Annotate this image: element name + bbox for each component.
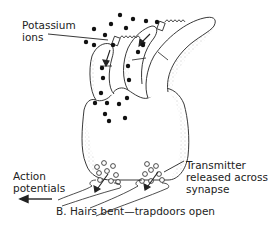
potassium-label-line1: Potassium [22,19,76,31]
action-potentials-arrow-icon [20,196,52,203]
transmitter-label-line1: Transmitter [186,159,268,171]
potassium-ions-label: Potassium ions [22,19,76,43]
action-potentials-label: Action potentials [13,170,65,194]
action-label-line2: potentials [13,182,65,194]
figure-caption: B. Hairs bent—trapdoors open [56,205,215,217]
potassium-label-line2: ions [22,31,76,43]
transmitter-label: Transmitter released across synapse [186,159,268,195]
transmitter-label-line3: synapse [186,183,268,195]
action-label-line1: Action [13,170,65,182]
transmitter-label-line2: released across [186,171,268,183]
